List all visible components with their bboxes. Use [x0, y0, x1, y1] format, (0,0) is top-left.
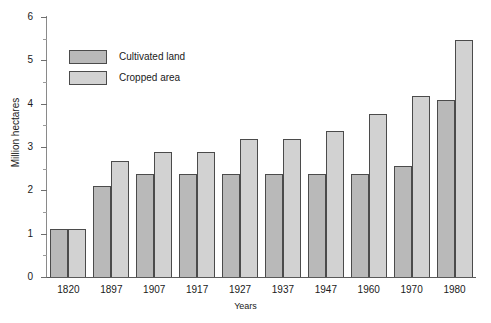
- y-tick-major: [41, 277, 47, 278]
- x-axis-title: Years: [0, 301, 491, 311]
- y-tick-label: 1: [9, 229, 33, 239]
- y-tick-label: 0: [9, 272, 33, 282]
- bar-cultivated-land: [50, 229, 68, 277]
- bar-cultivated-land: [351, 174, 369, 277]
- bar-group: [265, 17, 301, 277]
- x-tick-label: 1960: [347, 284, 390, 296]
- bar-cultivated-land: [265, 174, 283, 277]
- x-tick-label: 1937: [262, 284, 305, 296]
- y-axis-title: Million hectares: [10, 63, 21, 203]
- legend-item: Cultivated land: [69, 46, 269, 67]
- bar-cropped-area: [240, 139, 258, 277]
- y-axis-ticks: 0123456: [0, 0, 47, 323]
- bar-cultivated-land: [136, 174, 154, 277]
- bar-cultivated-land: [179, 174, 197, 277]
- bar-cropped-area: [455, 40, 473, 277]
- legend-swatch-cropped: [69, 71, 107, 85]
- bar-group: [437, 17, 473, 277]
- x-tick-label: 1927: [219, 284, 262, 296]
- x-tick-label: 1897: [90, 284, 133, 296]
- x-axis-tick-labels: 1820189719071917192719371947196019701980: [47, 284, 476, 300]
- bar-cropped-area: [197, 152, 215, 277]
- x-tick-label: 1970: [390, 284, 433, 296]
- bar-group: [308, 17, 344, 277]
- bar-cultivated-land: [394, 166, 412, 277]
- bar-cultivated-land: [437, 100, 455, 277]
- legend-label: Cropped area: [119, 72, 180, 83]
- bar-chart-figure: 0123456 Million hectares 182018971907191…: [0, 0, 491, 323]
- bar-cultivated-land: [222, 174, 240, 277]
- legend-label: Cultivated land: [119, 51, 185, 62]
- x-axis-line: [46, 277, 476, 278]
- x-tick-label: 1820: [47, 284, 90, 296]
- bar-group: [351, 17, 387, 277]
- bar-group: [394, 17, 430, 277]
- x-tick-label: 1947: [304, 284, 347, 296]
- x-tick-label: 1980: [433, 284, 476, 296]
- bar-cultivated-land: [308, 174, 326, 277]
- bar-cropped-area: [154, 152, 172, 277]
- x-tick-label: 1907: [133, 284, 176, 296]
- y-tick-label: 6: [9, 12, 33, 22]
- bar-cropped-area: [111, 161, 129, 277]
- x-tick-label: 1917: [176, 284, 219, 296]
- legend-item: Cropped area: [69, 67, 269, 88]
- bar-cropped-area: [369, 114, 387, 277]
- chart-legend: Cultivated landCropped area: [69, 46, 269, 88]
- bar-cropped-area: [326, 131, 344, 277]
- legend-swatch-cultivated: [69, 50, 107, 64]
- bar-cropped-area: [68, 229, 86, 277]
- bar-cropped-area: [283, 139, 301, 277]
- bar-cropped-area: [412, 96, 430, 277]
- bar-cultivated-land: [93, 186, 111, 277]
